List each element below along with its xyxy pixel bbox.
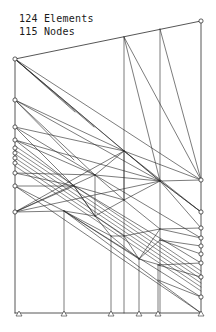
element-count-label: 124 Elements [19,12,94,25]
mesh-canvas [0,0,216,332]
crest-connector-edges [124,29,201,181]
fem-mesh-figure: 124 Elements 115 Nodes [0,0,216,332]
base-support-markers [16,311,204,316]
node-count-label: 115 Nodes [19,25,75,38]
vertical-interior-lines [64,29,160,313]
left-face-radiating-edges [15,100,160,212]
mesh-element-edges [15,21,201,313]
